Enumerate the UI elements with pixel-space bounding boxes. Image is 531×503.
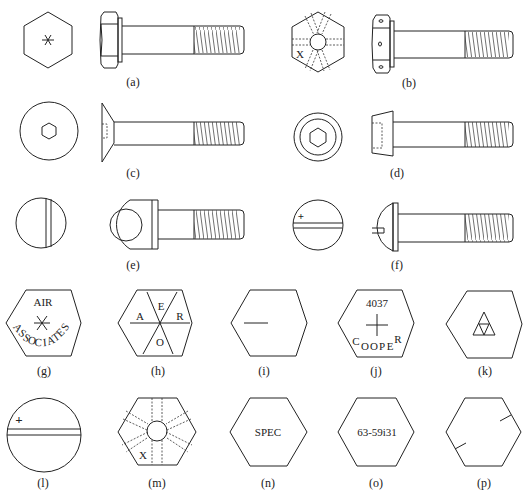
socket-head-inner-circle-icon xyxy=(300,119,336,155)
cross-mark-icon xyxy=(366,314,388,336)
drilled-hexagon-m-icon xyxy=(118,398,196,465)
figure-label-b: (b) xyxy=(402,76,416,90)
eye-bolt-side-icon xyxy=(110,200,244,249)
figure-label-l: (l) xyxy=(37,476,48,490)
figure-label-j: (j) xyxy=(370,364,381,378)
figure-label-g: (g) xyxy=(37,364,51,378)
figure-label-n: (n) xyxy=(261,476,275,490)
letter-e: E xyxy=(158,300,165,312)
plus-mark: + xyxy=(298,210,304,222)
figure-label-k: (k) xyxy=(478,364,492,378)
star-mark-icon xyxy=(34,316,50,330)
item-n: SPEC (n) xyxy=(230,398,307,490)
socket-head-cap-screw-side-icon xyxy=(372,111,513,156)
svg-text:R: R xyxy=(394,333,402,345)
item-h: E A R O (h) xyxy=(118,290,192,378)
tick-mark-icon xyxy=(455,443,466,449)
socket-head-outer-circle-icon xyxy=(294,113,342,161)
item-b: X (b) xyxy=(292,12,513,90)
item-d: (d) xyxy=(294,111,513,180)
plus-mark: + xyxy=(15,412,22,427)
drilled-hex-bolt-side-icon xyxy=(372,15,513,73)
svg-text:E: E xyxy=(387,340,394,352)
svg-text:C: C xyxy=(34,336,42,349)
figure-label-e: (e) xyxy=(126,258,139,272)
slotted-head-top-view-icon xyxy=(16,198,66,248)
figure-label-o: (o) xyxy=(369,476,383,490)
item-j: 4037 C O O P E R (j) xyxy=(338,290,414,378)
drill-hole-lines xyxy=(292,12,344,71)
air-text: AIR xyxy=(34,296,54,308)
x-mark: X xyxy=(296,48,304,60)
number-4037: 4037 xyxy=(366,297,389,309)
triangle-mark-icon xyxy=(473,312,495,335)
letter-r: R xyxy=(176,310,184,322)
part-number-text: 63-59i31 xyxy=(357,426,397,438)
figure-label-a: (a) xyxy=(126,75,139,89)
center-hole-icon xyxy=(310,34,326,50)
star-mark-icon xyxy=(42,35,54,45)
item-o: 63-59i31 (o) xyxy=(338,398,414,490)
item-i: (i) xyxy=(231,290,307,378)
round-head-bolt-side-icon xyxy=(372,203,513,251)
hexagon-p-icon xyxy=(446,398,521,466)
item-g: AIR A S S O C I A T E S (g) xyxy=(6,290,81,378)
figure-label-m: (m) xyxy=(148,476,165,490)
item-c: (c) xyxy=(20,102,244,180)
slotted-round-head-top-view-icon xyxy=(293,200,343,250)
item-l: + (l) xyxy=(7,398,81,490)
spec-text: SPEC xyxy=(255,426,281,438)
figure-label-f: (f) xyxy=(391,258,403,272)
countersunk-screw-side-icon xyxy=(102,103,244,162)
svg-text:P: P xyxy=(379,340,385,352)
x-mark: X xyxy=(139,449,147,461)
letter-o: O xyxy=(156,336,164,348)
figure-label-d: (d) xyxy=(390,166,404,180)
figure-label-i: (i) xyxy=(258,364,269,378)
bolt-identification-figure: (a) X xyxy=(0,0,531,503)
letter-a: A xyxy=(136,310,144,322)
item-f: + (f) xyxy=(293,200,513,272)
center-hole-icon xyxy=(147,421,167,441)
hex-socket-icon xyxy=(310,128,326,147)
figure-label-h: (h) xyxy=(151,364,165,378)
tick-mark-icon xyxy=(500,415,511,421)
hex-head-bolt-side-icon xyxy=(100,12,244,68)
figure-label-c: (c) xyxy=(126,166,139,180)
figure-label-p: (p) xyxy=(477,476,491,490)
hexagon-i-icon xyxy=(231,290,307,356)
svg-text:C: C xyxy=(352,335,359,347)
svg-text:O: O xyxy=(370,340,378,352)
item-p: (p) xyxy=(446,398,521,490)
item-m: X (m) xyxy=(118,398,196,490)
item-e: (e) xyxy=(16,198,244,272)
svg-text:O: O xyxy=(361,340,369,352)
item-k: (k) xyxy=(446,291,522,378)
hex-socket-icon xyxy=(42,123,56,139)
flat-head-top-view-icon xyxy=(20,102,78,160)
drilled-hex-head-top-view-icon xyxy=(292,12,344,72)
item-a: (a) xyxy=(24,12,244,89)
